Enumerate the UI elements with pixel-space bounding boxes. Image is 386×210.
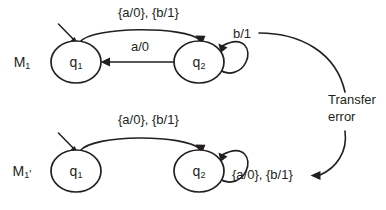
machine-label-m1-prime: M1': [13, 163, 32, 181]
transition-label-m1-q2-self: b/1: [233, 26, 251, 41]
annotation-line-2: error: [328, 109, 356, 124]
machine-m1-prime: q1 q2 M1' {a/0}, {b/1} {a/0}, {b/1}: [13, 112, 294, 192]
state-m1-q2: q2: [174, 41, 224, 83]
transition-label-m1-q2-q1: a/0: [131, 39, 149, 54]
automata-figure: q1 q2 M1 {a/0}, {b/1} a/0 b/1: [0, 0, 386, 210]
state-m1p-q1: q1: [51, 150, 101, 192]
transition-label-m1p-q2-self: {a/0}, {b/1}: [232, 167, 293, 182]
machine-m1: q1 q2 M1 {a/0}, {b/1} a/0 b/1: [14, 5, 251, 83]
state-m1p-q2: q2: [174, 150, 224, 192]
annotation-line-1: Transfer: [328, 92, 377, 107]
transition-label-m1-q1-q2: {a/0}, {b/1}: [118, 5, 179, 20]
machine-label-m1: M1: [14, 54, 31, 72]
annotation-transfer-error: Transfer error: [328, 92, 377, 124]
transition-label-m1p-q1-q2: {a/0}, {b/1}: [118, 112, 179, 127]
figure-canvas: q1 q2 M1 {a/0}, {b/1} a/0 b/1: [0, 0, 386, 210]
state-m1-q1: q1: [51, 41, 101, 83]
